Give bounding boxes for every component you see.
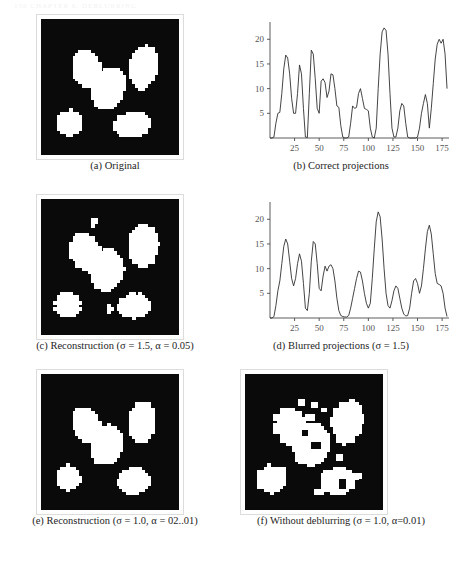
panel-e-image xyxy=(41,374,179,510)
svg-text:50: 50 xyxy=(315,143,325,153)
caption-c: (c) Reconstruction (σ = 1.5, α = 0.05) xyxy=(10,340,220,351)
caption-d: (d) Blurred projections (σ = 1.5) xyxy=(236,340,446,351)
svg-text:100: 100 xyxy=(362,323,376,333)
svg-text:25: 25 xyxy=(290,143,300,153)
caption-a: (a) Original xyxy=(10,160,220,171)
panel-d-plot: 2550751001251501755101520 xyxy=(240,194,455,340)
svg-text:15: 15 xyxy=(255,59,265,69)
svg-text:150: 150 xyxy=(411,143,425,153)
svg-text:175: 175 xyxy=(435,323,449,333)
svg-text:125: 125 xyxy=(386,143,400,153)
panel-f-without-deblurring xyxy=(240,369,388,515)
panel-c-frame xyxy=(36,194,184,340)
panel-b-svg: 2550751001251501755101520 xyxy=(240,14,455,160)
svg-text:150: 150 xyxy=(411,323,425,333)
panel-b-correct-projections: 2550751001251501755101520 xyxy=(240,14,455,160)
figure-row-2: 2550751001251501755101520 (c) Reconstruc… xyxy=(0,180,468,369)
svg-text:50: 50 xyxy=(315,323,325,333)
panel-d-blurred-projections: 2550751001251501755101520 xyxy=(240,194,455,340)
svg-text:15: 15 xyxy=(255,239,265,249)
figure-row-1: 2550751001251501755101520 (a) Original (… xyxy=(0,0,468,189)
svg-text:175: 175 xyxy=(435,143,449,153)
panel-e-reconstruction xyxy=(36,369,184,515)
svg-text:125: 125 xyxy=(386,323,400,333)
svg-text:5: 5 xyxy=(260,108,265,118)
svg-text:25: 25 xyxy=(290,323,300,333)
panel-f-frame xyxy=(240,369,388,515)
caption-b: (b) Correct projections xyxy=(236,160,446,171)
svg-text:5: 5 xyxy=(260,288,265,298)
caption-e: (e) Reconstruction (σ = 1.0, α = 02..01) xyxy=(10,515,220,526)
panel-e-frame xyxy=(36,369,184,515)
panel-d-svg: 2550751001251501755101520 xyxy=(240,194,455,340)
panel-c-image xyxy=(41,199,179,335)
figure-container: 150 CHAPTER 6. DEBLURRING 25507510012515… xyxy=(0,0,468,567)
svg-text:75: 75 xyxy=(339,143,349,153)
panel-a-image xyxy=(41,19,179,155)
panel-a-frame xyxy=(36,14,184,160)
panel-a-original xyxy=(36,14,184,160)
svg-text:10: 10 xyxy=(255,84,265,94)
caption-f: (f) Without deblurring (σ = 1.0, α=0.01) xyxy=(236,515,446,526)
panel-f-image xyxy=(245,374,383,510)
svg-text:20: 20 xyxy=(255,214,265,224)
panel-b-plot: 2550751001251501755101520 xyxy=(240,14,455,160)
svg-text:75: 75 xyxy=(339,323,349,333)
panel-c-reconstruction xyxy=(36,194,184,340)
svg-text:100: 100 xyxy=(362,143,376,153)
svg-text:20: 20 xyxy=(255,34,265,44)
svg-text:10: 10 xyxy=(255,264,265,274)
figure-row-3: (e) Reconstruction (σ = 1.0, α = 02..01)… xyxy=(0,355,468,544)
